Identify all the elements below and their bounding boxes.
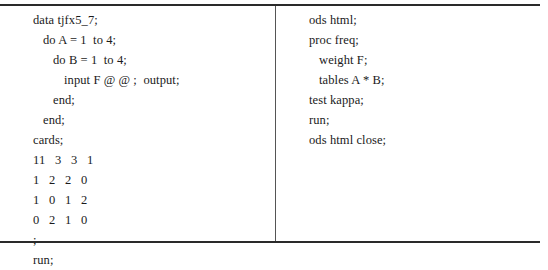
table-bottom-rule: [0, 241, 540, 243]
data-line: 11 3 3 1: [33, 150, 93, 170]
code-line: tables A * B;: [319, 70, 385, 90]
code-line: end;: [43, 110, 65, 130]
code-line: proc freq;: [309, 30, 359, 50]
code-line: run;: [309, 110, 330, 130]
code-line: do B = 1 to 4;: [53, 50, 127, 70]
code-line: data tjfx5_7;: [33, 10, 98, 30]
code-line: end;: [53, 90, 75, 110]
data-line: 1 2 2 0: [33, 170, 87, 190]
code-line: weight F;: [319, 50, 367, 70]
code-line: cards;: [33, 130, 63, 150]
code-line: input F @ @ ; output;: [64, 70, 180, 90]
data-line: 0 2 1 0: [33, 210, 87, 230]
code-line: ods html close;: [309, 130, 386, 150]
code-line: test kappa;: [309, 90, 364, 110]
code-line: ods html;: [309, 10, 357, 30]
table-top-rule: [0, 4, 540, 6]
data-line: 1 0 1 2: [33, 190, 87, 210]
code-line: ;: [33, 230, 37, 250]
code-line: run;: [33, 250, 54, 270]
column-divider: [275, 6, 276, 241]
code-line: do A = 1 to 4;: [43, 30, 116, 50]
